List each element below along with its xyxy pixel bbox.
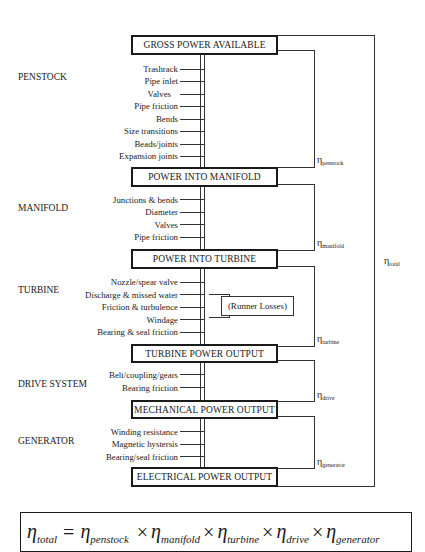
drive-stage-frame <box>204 360 315 402</box>
formula-term-generator: ηgenerator <box>326 520 379 545</box>
total-efficiency-formula: ηtotal = ηpenstock × ηmanifold × ηturbin… <box>20 512 412 552</box>
loss-connector <box>180 81 204 82</box>
manifold-stage-frame <box>204 184 315 251</box>
loss-item: Beads/joints <box>28 139 178 149</box>
runner-losses-box: (Runner Losses) <box>221 296 294 316</box>
loss-item: Belt/coupling/gears <box>28 370 178 380</box>
loss-item: Friction & turbulence <box>28 302 178 312</box>
loss-item: Valves <box>28 220 178 230</box>
turbine-power-output-box: TURBINE POWER OUTPUT <box>131 344 278 363</box>
loss-item: Diameter <box>28 207 178 217</box>
equals-sign: = <box>63 521 74 544</box>
eta-generator-label: ηgenerator <box>317 456 345 468</box>
loss-item: Junctions & bends <box>28 195 178 205</box>
loss-connector <box>180 319 204 320</box>
loss-connector <box>180 237 204 238</box>
loss-connector <box>180 106 204 107</box>
loss-connector <box>180 199 204 200</box>
eta-manifold-label: ηmanifold <box>317 237 344 249</box>
loss-item: Trashrack <box>28 64 178 74</box>
loss-item: Discharge & missed water <box>28 290 178 300</box>
power-into-turbine-box: POWER INTO TURBINE <box>131 249 278 269</box>
loss-item: Bearing friction <box>28 383 178 393</box>
loss-connector <box>180 387 204 388</box>
eta-penstock-label: ηpenstock <box>317 154 344 166</box>
loss-connector <box>180 431 204 432</box>
loss-item: Nozzle/spear valve <box>28 277 178 287</box>
eta-total-label: ηtotal <box>384 255 400 267</box>
mechanical-power-output-box: MECHANICAL POWER OUTPUT <box>131 400 278 419</box>
loss-connector <box>180 294 204 295</box>
loss-connector <box>180 224 204 225</box>
loss-item: Pipe friction <box>28 101 178 111</box>
loss-connector <box>180 94 204 95</box>
loss-connector <box>180 374 204 375</box>
loss-connector <box>180 119 204 120</box>
loss-item: Winding resistance <box>28 427 178 437</box>
formula-term-turbine: ηturbine <box>217 520 259 545</box>
formula-term-penstock: ηpenstock <box>80 520 128 545</box>
eta-drive-label: ηdrive <box>317 389 335 401</box>
loss-item: Size transitions <box>28 126 178 136</box>
loss-connector <box>180 69 204 70</box>
loss-connector <box>180 332 204 333</box>
loss-item: Expansion joints <box>28 151 178 161</box>
formula-lhs: ηtotal <box>27 520 57 545</box>
loss-connector <box>180 156 204 157</box>
times-sign: × <box>137 521 148 544</box>
loss-item: Valves <box>28 89 171 99</box>
electrical-power-output-box: ELECTRICAL POWER OUTPUT <box>131 467 278 487</box>
formula-term-manifold: ηmanifold <box>151 520 200 545</box>
loss-item: Magnetic hystersis <box>28 439 178 449</box>
eta-turbine-label: ηturbine <box>317 333 339 345</box>
loss-connector <box>180 307 204 308</box>
loss-item: Pipe inlet <box>28 76 178 86</box>
generator-stage-frame <box>204 416 315 469</box>
loss-connector <box>180 282 204 283</box>
loss-item: Bends <box>28 114 178 124</box>
loss-connector <box>180 456 204 457</box>
times-sign: × <box>262 521 273 544</box>
formula-term-drive: ηdrive <box>276 520 309 545</box>
loss-connector <box>180 212 204 213</box>
loss-item: Pipe friction <box>28 232 178 242</box>
times-sign: × <box>312 521 323 544</box>
loss-item: Bearing/seal friction <box>28 452 178 462</box>
loss-connector <box>180 444 204 445</box>
times-sign: × <box>203 521 214 544</box>
loss-item: Windage <box>28 315 178 325</box>
loss-item: Bearing & seal friction <box>28 327 178 337</box>
loss-connector <box>180 144 204 145</box>
penstock-stage-frame <box>204 50 315 168</box>
power-into-manifold-box: POWER INTO MANIFOLD <box>131 167 278 187</box>
loss-connector <box>180 131 204 132</box>
gross-power-available-box: GROSS POWER AVAILABLE <box>131 35 278 55</box>
